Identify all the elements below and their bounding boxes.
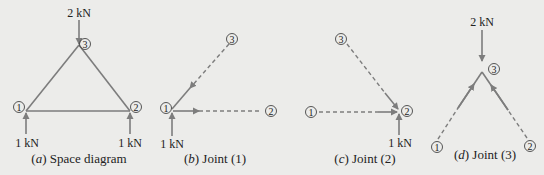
caption-a: (a) Space diagram bbox=[31, 151, 126, 166]
member-2-3-dashed bbox=[347, 44, 385, 93]
member-3-2 bbox=[79, 45, 130, 111]
force-arrow-3-2 bbox=[491, 85, 508, 110]
node-2-label: 2 bbox=[134, 102, 139, 113]
node-3-label: 3 bbox=[339, 34, 344, 45]
load-label-left: 1 kN bbox=[15, 136, 39, 150]
member-1-3-dashed bbox=[190, 44, 229, 88]
load-label-joint-2: 1 kN bbox=[388, 136, 412, 150]
node-3-label: 3 bbox=[492, 64, 497, 75]
node-2-label: 2 bbox=[405, 106, 410, 117]
load-label-joint-1: 1 kN bbox=[160, 137, 184, 151]
load-label-top: 2 kN bbox=[67, 6, 91, 20]
caption-d: (d) Joint (3) bbox=[454, 147, 516, 162]
node-2-label: 2 bbox=[269, 106, 274, 117]
node-3-label: 3 bbox=[83, 39, 88, 50]
node-2-label: 2 bbox=[528, 141, 533, 152]
node-1-label: 1 bbox=[164, 103, 169, 114]
force-arrow-1-3 bbox=[172, 88, 190, 109]
panel-space-diagram: 3 1 2 2 kN 1 kN 1 kN (a) Space diagram bbox=[14, 6, 143, 166]
panel-joint-2: 3 1 2 1 kN (c) Joint (2) bbox=[306, 34, 413, 167]
truss-figure: 3 1 2 2 kN 1 kN 1 kN (a) Space diagram 3… bbox=[0, 0, 544, 175]
member-1-3-dashed bbox=[438, 108, 458, 139]
node-1-label: 1 bbox=[435, 142, 440, 153]
member-1-3 bbox=[26, 45, 79, 111]
force-arrow-3-1 bbox=[458, 84, 474, 108]
node-1-label: 1 bbox=[17, 102, 22, 113]
caption-c: (c) Joint (2) bbox=[334, 151, 395, 166]
node-1-label: 1 bbox=[309, 107, 314, 118]
caption-b: (b) Joint (1) bbox=[184, 151, 246, 166]
node-3-label: 3 bbox=[230, 34, 235, 45]
panel-joint-1: 3 1 2 1 kN (b) Joint (1) bbox=[160, 34, 276, 167]
load-label-joint-3: 2 kN bbox=[470, 15, 494, 29]
panel-joint-3: 3 1 2 2 kN (d) Joint (3) bbox=[432, 15, 536, 162]
member-2-3-dashed bbox=[508, 110, 527, 138]
load-label-right: 1 kN bbox=[118, 136, 142, 150]
force-arrow-2-3 bbox=[385, 93, 398, 109]
